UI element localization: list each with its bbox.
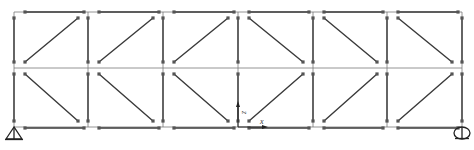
node-marker: [12, 60, 15, 63]
node-marker: [226, 119, 229, 122]
node-marker: [172, 72, 175, 75]
node-marker: [86, 60, 89, 63]
node-marker: [12, 119, 15, 122]
node-marker: [97, 72, 100, 75]
node-marker: [381, 126, 384, 129]
node-marker: [396, 16, 399, 19]
node-marker: [23, 60, 26, 63]
node-marker: [97, 10, 100, 13]
pin-support-icon: [5, 127, 23, 140]
node-marker: [385, 16, 388, 19]
node-marker: [460, 119, 463, 122]
node-marker: [456, 10, 459, 13]
node-marker: [311, 60, 314, 63]
diagonal-member: [99, 74, 153, 121]
node-marker: [76, 119, 79, 122]
diagonal-member: [174, 18, 228, 62]
node-marker: [396, 10, 399, 13]
node-marker: [97, 60, 100, 63]
node-marker: [460, 60, 463, 63]
node-marker: [301, 72, 304, 75]
z-axis-label: z: [240, 110, 249, 115]
x-axis-label: x: [259, 117, 264, 126]
node-marker: [82, 126, 85, 129]
node-marker: [23, 126, 26, 129]
node-marker: [82, 10, 85, 13]
node-marker: [236, 60, 239, 63]
node-marker: [247, 119, 250, 122]
node-marker: [76, 16, 79, 19]
diagonal-member: [398, 74, 452, 121]
node-marker: [23, 10, 26, 13]
node-marker: [307, 10, 310, 13]
node-marker: [450, 72, 453, 75]
node-marker: [172, 60, 175, 63]
node-marker: [226, 16, 229, 19]
node-marker: [157, 126, 160, 129]
diagonal-member: [249, 18, 303, 62]
node-marker: [236, 72, 239, 75]
node-marker: [247, 10, 250, 13]
node-marker: [86, 72, 89, 75]
node-marker: [311, 119, 314, 122]
node-marker: [460, 72, 463, 75]
diagonal-member: [398, 18, 452, 62]
diagonal-member: [25, 74, 78, 121]
z-axis-arrowhead-icon: [236, 101, 240, 107]
node-marker: [86, 119, 89, 122]
node-marker: [450, 60, 453, 63]
node-marker: [307, 126, 310, 129]
diagonal-member: [324, 74, 377, 121]
node-marker: [86, 16, 89, 19]
diagonal-member: [249, 74, 303, 121]
node-marker: [385, 119, 388, 122]
node-marker: [311, 16, 314, 19]
node-marker: [322, 126, 325, 129]
node-marker: [322, 10, 325, 13]
diagonal-member: [25, 18, 78, 62]
node-marker: [385, 60, 388, 63]
node-marker: [12, 72, 15, 75]
node-marker: [161, 60, 164, 63]
node-marker: [247, 16, 250, 19]
node-marker: [97, 126, 100, 129]
node-marker: [460, 16, 463, 19]
diagonal-member: [324, 18, 377, 62]
node-marker: [161, 119, 164, 122]
node-marker: [322, 119, 325, 122]
node-marker: [396, 119, 399, 122]
node-marker: [157, 10, 160, 13]
node-marker: [12, 16, 15, 19]
diagonal-member: [174, 74, 228, 121]
truss-frame-diagram: z x: [0, 0, 474, 150]
node-marker: [375, 60, 378, 63]
node-marker: [301, 60, 304, 63]
diagonal-member: [99, 18, 153, 62]
node-marker: [161, 16, 164, 19]
node-marker: [151, 119, 154, 122]
coordinate-axes: z x: [236, 101, 268, 129]
node-marker: [172, 10, 175, 13]
node-marker: [236, 16, 239, 19]
roller-support-icon: [454, 127, 470, 139]
node-marker: [311, 72, 314, 75]
node-marker: [161, 72, 164, 75]
node-marker: [23, 72, 26, 75]
node-marker: [232, 10, 235, 13]
node-marker: [322, 16, 325, 19]
node-marker: [172, 126, 175, 129]
node-marker: [232, 126, 235, 129]
node-marker: [151, 16, 154, 19]
node-marker: [396, 126, 399, 129]
node-marker: [385, 72, 388, 75]
node-marker: [375, 72, 378, 75]
node-marker: [381, 10, 384, 13]
